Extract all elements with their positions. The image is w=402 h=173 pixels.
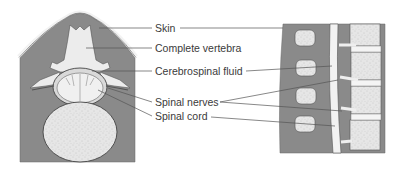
- vertebral-body-block: [350, 120, 380, 150]
- label-complete-vertebra: Complete vertebra: [155, 42, 242, 54]
- vertebral-body-block: [351, 52, 381, 80]
- nerve-exit: [341, 141, 352, 142]
- longitudinal-panel: [279, 24, 385, 153]
- spinal-anatomy-diagram: Skin Complete vertebra Cerebrospinal flu…: [0, 0, 402, 173]
- spinous-block: [295, 30, 315, 46]
- nerve-exit: [341, 108, 356, 110]
- vertebral-body-block: [350, 24, 380, 46]
- label-cerebrospinal-fluid: Cerebrospinal fluid: [155, 65, 243, 77]
- label-skin: Skin: [155, 22, 176, 34]
- label-spinal-nerves: Spinal nerves: [155, 96, 219, 108]
- label-spinal-cord: Spinal cord: [155, 110, 208, 122]
- spinous-block: [296, 88, 316, 104]
- cross-section-panel: [18, 12, 137, 163]
- vertebral-body: [43, 102, 117, 162]
